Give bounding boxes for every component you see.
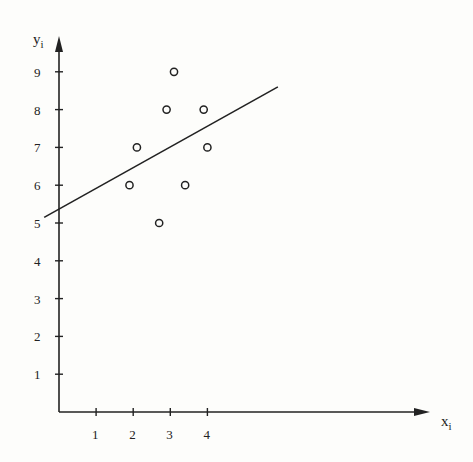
y-tick-label: 8 [34, 103, 41, 118]
data-point [156, 219, 163, 226]
x-axis-arrow-icon [414, 408, 430, 416]
data-point [126, 182, 133, 189]
data-point [133, 144, 140, 151]
data-point [163, 106, 170, 113]
data-point [170, 68, 177, 75]
data-point [182, 182, 189, 189]
x-tick-label: 4 [203, 427, 210, 442]
x-ticks: 1234 [92, 408, 210, 442]
y-tick-label: 1 [34, 367, 41, 382]
data-point [200, 106, 207, 113]
y-tick-label: 4 [34, 254, 41, 269]
x-tick-label: 3 [166, 427, 173, 442]
regression-line [44, 87, 278, 217]
y-axis-label: yi [33, 31, 44, 50]
x-tick-label: 2 [129, 427, 136, 442]
y-tick-label: 2 [34, 329, 41, 344]
scatter-plot: yi xi 123456789 1234 [0, 0, 473, 462]
data-point [204, 144, 211, 151]
y-axis-arrow-icon [55, 36, 63, 52]
y-tick-label: 7 [34, 140, 41, 155]
y-tick-label: 3 [34, 292, 41, 307]
y-tick-label: 6 [34, 178, 41, 193]
x-tick-label: 1 [92, 427, 99, 442]
x-axis-label: xi [441, 413, 452, 432]
y-tick-label: 9 [34, 65, 41, 80]
x-axis: xi [59, 408, 452, 432]
y-tick-label: 5 [34, 216, 41, 231]
